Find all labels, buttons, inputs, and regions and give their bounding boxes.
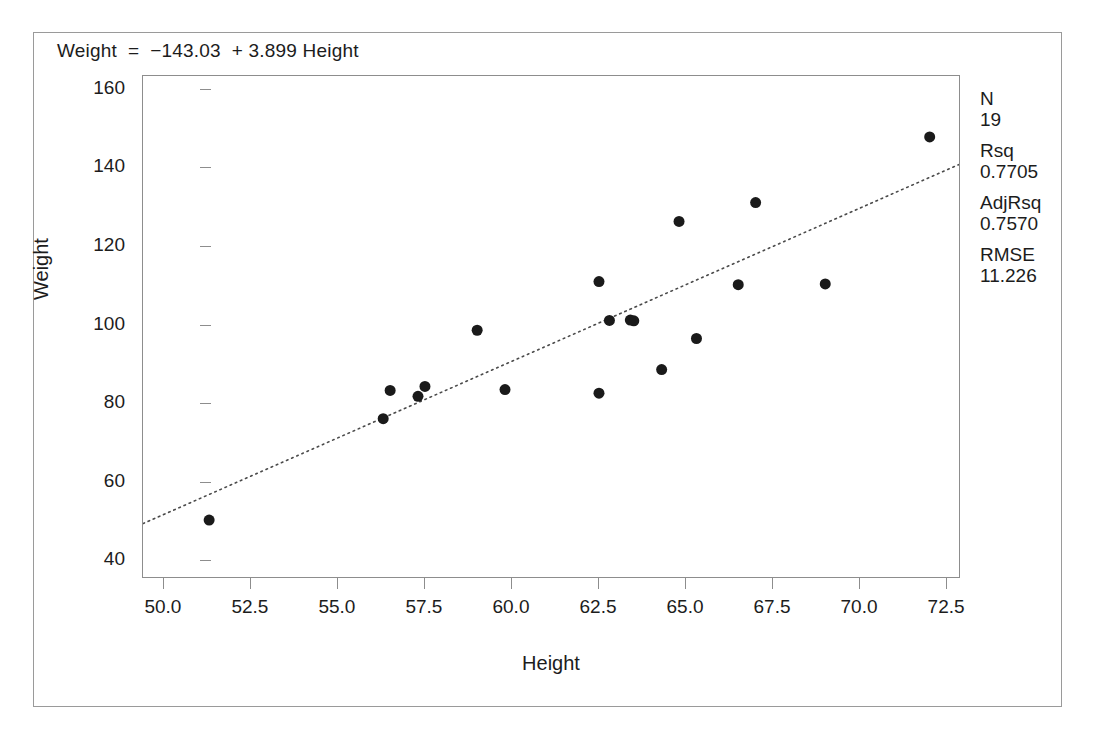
x-axis-tick-label: 65.0 — [667, 596, 704, 618]
x-axis-tick-label: 72.5 — [928, 596, 965, 618]
data-point — [204, 515, 215, 526]
data-point — [378, 413, 389, 424]
data-point-group — [204, 131, 936, 525]
data-point — [419, 381, 430, 392]
data-point — [500, 384, 511, 395]
x-axis-tick-label: 62.5 — [579, 596, 616, 618]
statistic-value: 0.7705 — [980, 161, 1060, 182]
statistic-name: N — [980, 88, 1060, 109]
statistic-name: AdjRsq — [980, 192, 1060, 213]
statistic-name: RMSE — [980, 244, 1060, 265]
regression-fit-line — [143, 164, 960, 524]
data-point — [924, 131, 935, 142]
statistic-block: N19 — [980, 88, 1060, 131]
data-point — [593, 276, 604, 287]
data-point — [674, 216, 685, 227]
x-axis-tick-label: 55.0 — [318, 596, 355, 618]
x-axis-tick-mark — [337, 578, 338, 589]
data-point — [472, 325, 483, 336]
data-point — [733, 279, 744, 290]
data-point — [625, 315, 636, 326]
statistic-block: RMSE11.226 — [980, 244, 1060, 287]
statistic-block: Rsq0.7705 — [980, 140, 1060, 183]
x-axis-tick-mark — [946, 578, 947, 589]
x-axis-tick-mark — [598, 578, 599, 589]
x-axis-tick-label: 50.0 — [144, 596, 181, 618]
x-axis-tick-label: 67.5 — [754, 596, 791, 618]
statistic-block: AdjRsq0.7570 — [980, 192, 1060, 235]
x-axis-tick-label: 70.0 — [841, 596, 878, 618]
statistic-value: 11.226 — [980, 265, 1060, 286]
data-point — [593, 388, 604, 399]
statistic-name: Rsq — [980, 140, 1060, 161]
x-axis-tick-label: 57.5 — [405, 596, 442, 618]
data-point — [385, 385, 396, 396]
x-axis-tick-mark — [859, 578, 860, 589]
x-axis-tick-mark — [772, 578, 773, 589]
data-point — [412, 391, 423, 402]
data-point — [750, 197, 761, 208]
x-axis-tick-mark — [163, 578, 164, 589]
data-point — [604, 315, 615, 326]
scatter-plot-canvas — [143, 76, 960, 578]
x-axis-tick-label: 52.5 — [231, 596, 268, 618]
statistic-value: 0.7570 — [980, 213, 1060, 234]
data-point — [691, 333, 702, 344]
x-axis-tick-mark — [685, 578, 686, 589]
fit-line-segment — [143, 164, 960, 524]
data-point — [820, 278, 831, 289]
statistics-panel: N19Rsq0.7705AdjRsq0.7570RMSE11.226 — [980, 88, 1060, 296]
figure-page: Weight = −143.03 + 3.899 Height Weight H… — [0, 0, 1095, 741]
statistic-value: 19 — [980, 109, 1060, 130]
x-axis-tick-mark — [250, 578, 251, 589]
x-axis-tick-mark — [511, 578, 512, 589]
x-axis-tick-label: 60.0 — [492, 596, 529, 618]
plot-area — [142, 75, 960, 578]
x-axis-tick-mark — [424, 578, 425, 589]
data-point — [656, 364, 667, 375]
